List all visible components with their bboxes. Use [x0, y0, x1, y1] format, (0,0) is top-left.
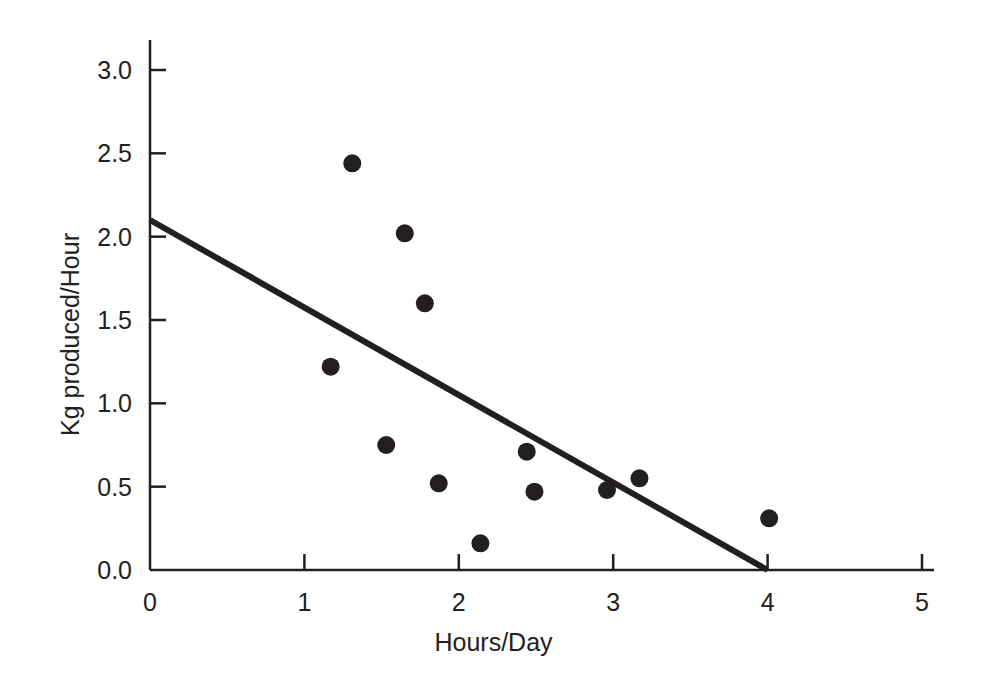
- y-tick-label: 3.0: [32, 56, 132, 85]
- data-point-marker: [630, 469, 648, 487]
- trendline-segment: [150, 220, 768, 570]
- data-point-marker: [430, 474, 448, 492]
- trendline: [150, 220, 768, 570]
- y-tick-label: 0.0: [32, 556, 132, 585]
- scatter-plot-figure: 0123450.00.51.01.52.02.53.0 Hours/Day Kg…: [0, 0, 987, 688]
- x-axis-title: Hours/Day: [0, 628, 987, 657]
- data-point-marker: [760, 509, 778, 527]
- plot-canvas: [0, 0, 987, 688]
- x-axis-ticks: [304, 554, 922, 570]
- data-point-marker: [322, 358, 340, 376]
- x-tick-label: 4: [761, 588, 775, 617]
- data-point-marker: [396, 224, 414, 242]
- data-point-marker: [377, 436, 395, 454]
- y-axis-title: Kg produced/Hour: [56, 205, 85, 465]
- data-point-marker: [525, 483, 543, 501]
- x-tick-label: 0: [143, 588, 157, 617]
- y-tick-label: 0.5: [32, 472, 132, 501]
- x-tick-label: 1: [297, 588, 311, 617]
- y-tick-label: 2.5: [32, 139, 132, 168]
- x-tick-label: 2: [452, 588, 466, 617]
- data-point-marker: [416, 294, 434, 312]
- data-point-marker: [343, 154, 361, 172]
- data-point-marker: [471, 534, 489, 552]
- data-point-marker: [518, 443, 536, 461]
- data-point-marker: [598, 481, 616, 499]
- x-tick-label: 3: [606, 588, 620, 617]
- x-tick-label: 5: [915, 588, 929, 617]
- y-axis-ticks: [150, 70, 166, 487]
